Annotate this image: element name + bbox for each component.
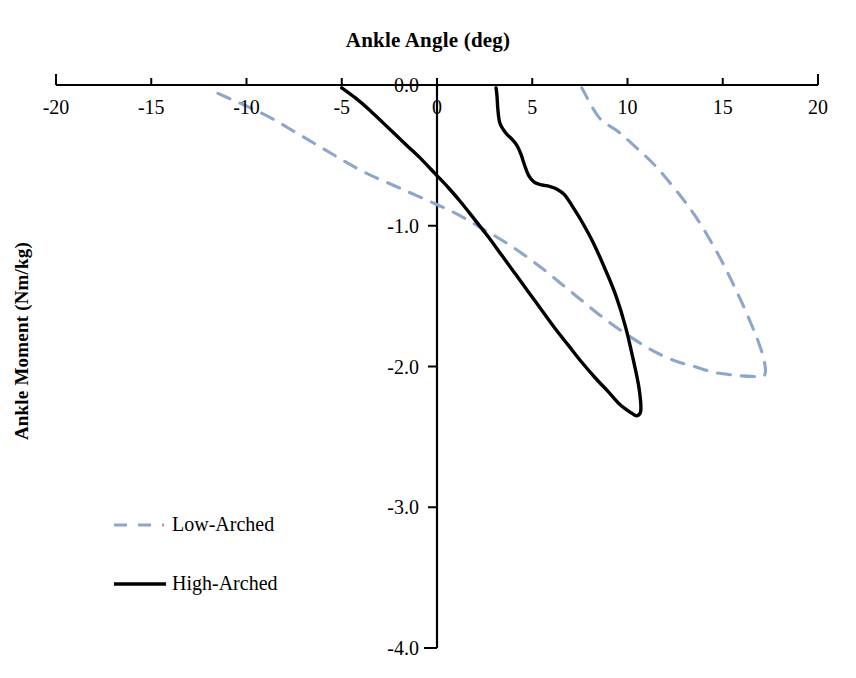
data-series-group [218, 88, 766, 416]
ankle-moment-angle-chart: Ankle Angle (deg) Ankle Moment (Nm/kg) -… [0, 0, 856, 678]
x-tick-label: 20 [808, 96, 828, 119]
series-line-low-arched [218, 88, 766, 377]
x-tick-label: 5 [527, 96, 537, 119]
x-tick-label: -15 [138, 96, 165, 119]
legend-label-high-arched: High-Arched [172, 572, 278, 595]
x-tick-label: -20 [43, 96, 70, 119]
x-tick-label: 15 [713, 96, 733, 119]
y-tick-label: 0.0 [341, 74, 419, 97]
x-tick-label: -5 [333, 96, 350, 119]
legend-swatch-high-arched [112, 577, 166, 591]
legend-item-high-arched: High-Arched [112, 572, 278, 595]
y-tick-label: -4.0 [341, 637, 419, 660]
x-tick-label: -10 [233, 96, 260, 119]
y-tick-label: -3.0 [341, 496, 419, 519]
legend-label-low-arched: Low-Arched [172, 513, 274, 536]
x-tick-label: 0 [432, 96, 442, 119]
x-tick-label: 10 [618, 96, 638, 119]
legend-item-low-arched: Low-Arched [112, 513, 274, 536]
y-tick-label: -2.0 [341, 355, 419, 378]
y-tick-label: -1.0 [341, 214, 419, 237]
legend-swatch-low-arched [112, 518, 166, 532]
axes-group [56, 74, 818, 648]
